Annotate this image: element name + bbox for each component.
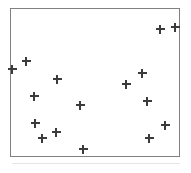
scatter-point-marker bbox=[38, 134, 47, 143]
scatter-point-marker bbox=[30, 92, 39, 101]
scatter-point-marker bbox=[143, 97, 152, 106]
marker-vertical-stroke bbox=[11, 65, 12, 74]
scatter-point-marker bbox=[156, 25, 165, 34]
marker-vertical-stroke bbox=[164, 121, 165, 130]
marker-vertical-stroke bbox=[82, 145, 83, 154]
scatter-point-marker bbox=[52, 128, 61, 137]
marker-horizontal-stroke bbox=[156, 28, 165, 29]
marker-vertical-stroke bbox=[55, 128, 56, 137]
marker-horizontal-stroke bbox=[143, 100, 152, 101]
marker-vertical-stroke bbox=[41, 134, 42, 143]
scatter-point-marker bbox=[161, 121, 170, 130]
marker-vertical-stroke bbox=[79, 101, 80, 110]
scatter-point-marker bbox=[31, 119, 40, 128]
marker-vertical-stroke bbox=[56, 75, 57, 84]
marker-vertical-stroke bbox=[34, 119, 35, 128]
scatter-point-marker bbox=[79, 145, 88, 154]
scatter-point-marker bbox=[53, 75, 62, 84]
marker-horizontal-stroke bbox=[53, 78, 62, 79]
marker-horizontal-stroke bbox=[22, 60, 31, 61]
marker-horizontal-stroke bbox=[76, 104, 85, 105]
marker-horizontal-stroke bbox=[145, 137, 154, 138]
scan-artifact-line bbox=[12, 163, 180, 164]
marker-horizontal-stroke bbox=[79, 148, 88, 149]
marker-vertical-stroke bbox=[33, 92, 34, 101]
marker-horizontal-stroke bbox=[171, 26, 180, 27]
marker-vertical-stroke bbox=[25, 57, 26, 66]
plot-frame bbox=[10, 8, 180, 157]
scatter-point-marker bbox=[138, 69, 147, 78]
marker-horizontal-stroke bbox=[30, 95, 39, 96]
plot-area bbox=[11, 9, 179, 156]
scatter-point-marker bbox=[145, 134, 154, 143]
marker-vertical-stroke bbox=[146, 97, 147, 106]
scatter-point-marker bbox=[22, 57, 31, 66]
marker-vertical-stroke bbox=[125, 80, 126, 89]
marker-vertical-stroke bbox=[159, 25, 160, 34]
marker-horizontal-stroke bbox=[38, 137, 47, 138]
scatter-point-marker bbox=[122, 80, 131, 89]
marker-horizontal-stroke bbox=[161, 124, 170, 125]
scatter-point-marker bbox=[8, 65, 17, 74]
scatter-point-marker bbox=[76, 101, 85, 110]
marker-vertical-stroke bbox=[141, 69, 142, 78]
marker-horizontal-stroke bbox=[138, 72, 147, 73]
marker-horizontal-stroke bbox=[52, 131, 61, 132]
marker-vertical-stroke bbox=[174, 23, 175, 32]
scatter-point-marker bbox=[171, 23, 180, 32]
marker-horizontal-stroke bbox=[122, 83, 131, 84]
marker-horizontal-stroke bbox=[31, 122, 40, 123]
scatter-plot-figure bbox=[0, 0, 191, 173]
marker-vertical-stroke bbox=[148, 134, 149, 143]
marker-horizontal-stroke bbox=[8, 68, 17, 69]
